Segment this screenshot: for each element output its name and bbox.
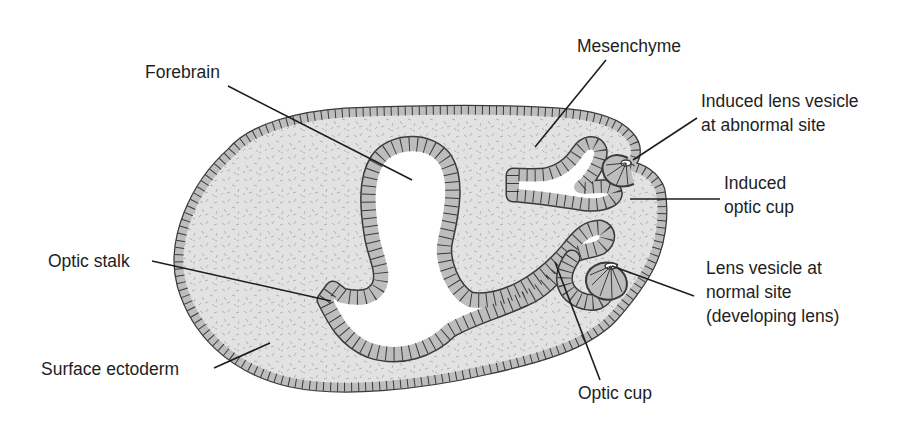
label-surface-ectoderm: Surface ectoderm [41, 357, 179, 381]
label-forebrain: Forebrain [145, 60, 220, 84]
leader-induced-lens-vesicle [633, 118, 697, 160]
label-mesenchyme: Mesenchyme [577, 34, 681, 58]
label-lens-vesicle-normal: Lens vesicle at normal site (developing … [706, 256, 839, 328]
label-induced-optic-cup: Induced optic cup [724, 171, 794, 219]
label-optic-stalk: Optic stalk [48, 249, 130, 273]
label-optic-cup: Optic cup [578, 381, 652, 405]
label-induced-lens-vesicle: Induced lens vesicle at abnormal site [701, 89, 859, 137]
